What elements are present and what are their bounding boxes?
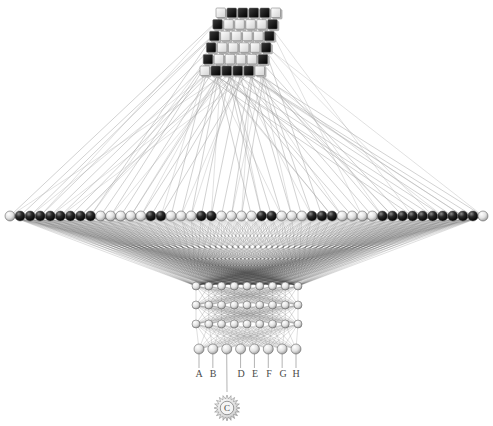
grid-cell-on[interactable]: [203, 54, 213, 64]
output-layer[interactable]: [194, 344, 301, 354]
wide-node[interactable]: [96, 211, 106, 221]
wide-node-active[interactable]: [55, 211, 65, 221]
wide-node[interactable]: [216, 211, 226, 221]
hidden-node[interactable]: [192, 301, 200, 309]
wide-node[interactable]: [136, 211, 146, 221]
wide-node-active[interactable]: [408, 211, 418, 221]
grid-cell-on[interactable]: [238, 8, 248, 18]
grid-cell-off[interactable]: [239, 43, 249, 53]
wide-node-active[interactable]: [267, 211, 277, 221]
output-node[interactable]: [263, 344, 273, 354]
wide-node[interactable]: [226, 211, 236, 221]
grid-cell-off[interactable]: [247, 54, 257, 64]
output-node[interactable]: [249, 344, 259, 354]
wide-node-active[interactable]: [438, 211, 448, 221]
grid-cell-off[interactable]: [228, 43, 238, 53]
grid-cell-on[interactable]: [222, 66, 232, 76]
output-node[interactable]: [291, 344, 301, 354]
wide-node-active[interactable]: [428, 211, 438, 221]
grid-cell-off[interactable]: [200, 66, 210, 76]
grid-cell-on[interactable]: [213, 20, 223, 30]
grid-cell-on[interactable]: [206, 43, 216, 53]
wide-node-active[interactable]: [307, 211, 317, 221]
wide-node-active[interactable]: [468, 211, 478, 221]
grid-cell-off[interactable]: [217, 43, 227, 53]
grid-cell-off[interactable]: [235, 20, 245, 30]
grid-cell-off[interactable]: [257, 20, 267, 30]
output-node[interactable]: [236, 344, 246, 354]
wide-node[interactable]: [236, 211, 246, 221]
grid-cell-on[interactable]: [249, 8, 259, 18]
wide-node-active[interactable]: [196, 211, 206, 221]
hidden-node[interactable]: [269, 320, 277, 328]
hidden-node[interactable]: [192, 320, 200, 328]
grid-cell-off[interactable]: [246, 20, 256, 30]
wide-node[interactable]: [247, 211, 257, 221]
wide-node-active[interactable]: [418, 211, 428, 221]
hidden-node[interactable]: [269, 301, 277, 309]
wide-node-active[interactable]: [257, 211, 267, 221]
grid-cell-off[interactable]: [255, 66, 265, 76]
grid-cell-off[interactable]: [243, 31, 253, 41]
hidden-node[interactable]: [269, 282, 277, 290]
grid-cell-off[interactable]: [224, 20, 234, 30]
wide-node[interactable]: [106, 211, 116, 221]
grid-cell-on[interactable]: [260, 8, 270, 18]
wide-node-active[interactable]: [458, 211, 468, 221]
hidden-node[interactable]: [281, 320, 289, 328]
hidden-node[interactable]: [218, 282, 226, 290]
hidden-node[interactable]: [205, 320, 213, 328]
hidden-node[interactable]: [294, 301, 302, 309]
output-node[interactable]: [194, 344, 204, 354]
grid-cell-on[interactable]: [268, 20, 278, 30]
hidden-dense-block[interactable]: [192, 282, 302, 328]
wide-node[interactable]: [287, 211, 297, 221]
grid-cell-on[interactable]: [244, 66, 254, 76]
wide-node-active[interactable]: [448, 211, 458, 221]
wide-node-active[interactable]: [387, 211, 397, 221]
hidden-node[interactable]: [281, 282, 289, 290]
grid-cell-on[interactable]: [265, 31, 275, 41]
hidden-node[interactable]: [230, 301, 238, 309]
grid-cell-off[interactable]: [250, 43, 260, 53]
wide-node-active[interactable]: [156, 211, 166, 221]
wide-node-active[interactable]: [377, 211, 387, 221]
wide-feature-layer[interactable]: [5, 211, 488, 221]
hidden-node[interactable]: [230, 282, 238, 290]
hidden-node[interactable]: [218, 320, 226, 328]
hidden-node[interactable]: [256, 320, 264, 328]
hidden-node[interactable]: [243, 282, 251, 290]
wide-node-active[interactable]: [75, 211, 85, 221]
wide-node[interactable]: [357, 211, 367, 221]
hidden-node[interactable]: [230, 320, 238, 328]
wide-node-active[interactable]: [15, 211, 25, 221]
hidden-node[interactable]: [205, 301, 213, 309]
wide-node[interactable]: [277, 211, 287, 221]
grid-cell-off[interactable]: [271, 8, 281, 18]
output-node[interactable]: [277, 344, 287, 354]
grid-cell-on[interactable]: [261, 43, 271, 53]
wide-node[interactable]: [337, 211, 347, 221]
wide-node[interactable]: [478, 211, 488, 221]
hidden-node[interactable]: [243, 301, 251, 309]
wide-node-active[interactable]: [317, 211, 327, 221]
hidden-node[interactable]: [192, 282, 200, 290]
hidden-node[interactable]: [205, 282, 213, 290]
hidden-node[interactable]: [281, 301, 289, 309]
wide-node[interactable]: [186, 211, 196, 221]
wide-node-active[interactable]: [35, 211, 45, 221]
wide-node-active[interactable]: [65, 211, 75, 221]
grid-cell-on[interactable]: [227, 8, 237, 18]
wide-node[interactable]: [347, 211, 357, 221]
wide-node[interactable]: [116, 211, 126, 221]
grid-cell-on[interactable]: [258, 54, 268, 64]
grid-cell-on[interactable]: [233, 66, 243, 76]
input-pixel-grid[interactable]: [200, 8, 282, 77]
wide-node[interactable]: [166, 211, 176, 221]
hidden-node[interactable]: [256, 282, 264, 290]
wide-node-active[interactable]: [146, 211, 156, 221]
grid-cell-off[interactable]: [236, 54, 246, 64]
output-node[interactable]: [208, 344, 218, 354]
wide-node[interactable]: [176, 211, 186, 221]
hidden-node[interactable]: [256, 301, 264, 309]
